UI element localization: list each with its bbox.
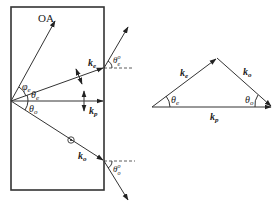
crystal-box: [11, 7, 104, 190]
theta-o-arc: [25, 101, 28, 110]
theta-e-arc: [27, 95, 28, 101]
left-panel: OA φe θe θo ke kp ko: [11, 7, 135, 200]
ko-label: ko: [78, 150, 87, 163]
triangle-theta-o-arc: [255, 95, 258, 107]
right-panel-triangle: ke ko kp θe θo: [152, 58, 271, 124]
theta-o-label: θo: [29, 103, 38, 116]
theta-e-out-arc: [108, 61, 112, 68]
optic-axis-label: OA: [38, 12, 54, 24]
ke-polarization-icon: [76, 69, 82, 84]
ko-polarization-dot-icon: [68, 137, 74, 143]
kp-label: kp: [89, 105, 98, 118]
triangle-kp-label: kp: [210, 111, 219, 124]
phase-matching-diagram: OA φe θe θo ke kp ko: [0, 0, 280, 205]
phi-e-label: φe: [22, 81, 31, 94]
theta-o-out-label: θoo: [113, 163, 120, 176]
theta-e-out-label: θoe: [113, 54, 120, 67]
triangle-theta-o-label: θo: [245, 94, 254, 107]
triangle-ke-label: ke: [180, 67, 188, 80]
triangle-ko-label: ko: [243, 66, 252, 79]
triangle-theta-e-arc: [166, 96, 170, 107]
ke-label: ke: [88, 57, 96, 70]
theta-o-out-arc: [108, 161, 112, 168]
triangle-theta-e-label: θe: [171, 94, 179, 107]
